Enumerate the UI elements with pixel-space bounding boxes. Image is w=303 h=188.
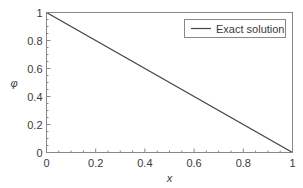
y-tick-label: 0.6 [27,63,42,75]
x-tick-label: 0.6 [186,157,201,169]
x-tick-label: 0.4 [137,157,152,169]
x-tick-label: 0.8 [236,157,251,169]
x-axis-label: x [166,172,173,184]
line-chart: 00.20.40.60.8100.20.40.60.81 x φ Exact s… [0,0,303,188]
y-tick-label: 0 [36,147,42,159]
y-tick-label: 0.2 [27,119,42,131]
legend-label: Exact solution [216,23,284,35]
y-tick-label: 0.4 [27,91,42,103]
x-tick-label: 0.2 [88,157,103,169]
x-tick-label: 0 [43,157,49,169]
legend: Exact solution [185,20,286,38]
y-tick-label: 1 [36,7,42,19]
x-tick-label: 1 [289,157,295,169]
y-tick-label: 0.8 [27,35,42,47]
y-axis-label: φ [10,77,17,89]
